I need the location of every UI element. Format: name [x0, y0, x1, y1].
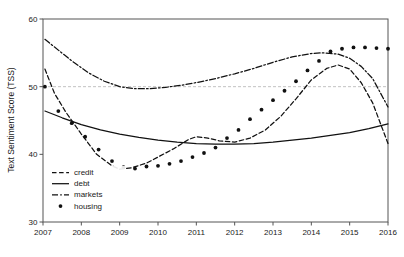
y-tick-label: 60 — [29, 15, 38, 24]
x-tick-label: 2010 — [149, 228, 167, 237]
y-tick-label: 50 — [29, 83, 38, 92]
x-tick-label: 2015 — [341, 228, 359, 237]
data-point — [237, 128, 241, 132]
data-point — [83, 135, 87, 139]
chart-figure: 30405060 2007200820092010201120122013201… — [0, 0, 404, 257]
chart-canvas: 30405060 2007200820092010201120122013201… — [0, 0, 404, 257]
data-point — [248, 117, 252, 121]
x-tick-label: 2008 — [72, 228, 90, 237]
data-point — [352, 46, 356, 50]
y-axis-title: Text Sentiment Score (TSS) — [6, 67, 16, 173]
legend-label: debt — [74, 179, 90, 188]
data-point — [283, 89, 287, 93]
y-tick-label: 30 — [29, 218, 38, 227]
data-point — [202, 151, 206, 155]
data-point — [340, 47, 344, 51]
x-tick-label: 2014 — [302, 228, 320, 237]
data-point — [56, 109, 60, 113]
data-point — [179, 159, 183, 163]
data-point — [145, 165, 149, 169]
x-tick-label: 2016 — [379, 228, 397, 237]
data-point — [97, 148, 101, 152]
data-point — [260, 108, 264, 112]
data-point — [168, 162, 172, 166]
data-point — [156, 164, 160, 168]
legend-label: markets — [74, 190, 102, 199]
data-point — [294, 79, 298, 83]
data-point — [375, 46, 379, 50]
data-point — [225, 136, 229, 140]
data-point — [271, 98, 275, 102]
data-point — [110, 159, 114, 163]
data-point — [191, 155, 195, 159]
data-point — [133, 167, 137, 171]
data-point — [70, 121, 74, 125]
data-point — [306, 69, 310, 73]
data-point — [329, 50, 333, 54]
dot-marker-swatch — [59, 204, 63, 208]
data-point — [386, 47, 390, 51]
x-tick-label: 2009 — [111, 228, 129, 237]
x-tick-label: 2013 — [264, 228, 282, 237]
x-tick-label: 2012 — [226, 228, 244, 237]
figure-background — [0, 0, 404, 257]
legend-label: credit — [74, 168, 94, 177]
y-tick-label: 40 — [29, 150, 38, 159]
chart-legend: creditdebtmarketshousing — [48, 166, 126, 217]
data-point — [214, 146, 218, 150]
x-tick-label: 2007 — [34, 228, 52, 237]
data-point — [317, 59, 321, 63]
legend-label: housing — [74, 202, 102, 211]
data-point — [43, 85, 47, 89]
data-point — [363, 46, 367, 50]
x-tick-label: 2011 — [188, 228, 206, 237]
